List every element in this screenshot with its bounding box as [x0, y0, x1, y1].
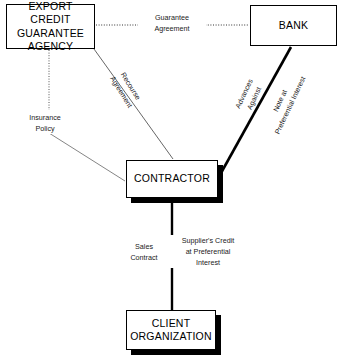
diagram-canvas: EXPORT CREDIT GUARANTEE AGENCY BANK CONT… — [0, 0, 342, 363]
node-client-organization[interactable]: CLIENT ORGANIZATION — [126, 310, 216, 350]
edge-insurance-policy-solid — [49, 133, 125, 181]
edge-label-insurance-policy: Insurance Policy — [13, 112, 77, 134]
edge-label-sales-contract: Sales Contract — [120, 241, 168, 263]
node-label-client-organization: CLIENT ORGANIZATION — [130, 317, 212, 344]
node-contractor[interactable]: CONTRACTOR — [126, 160, 218, 198]
node-export-credit-guarantee-agency[interactable]: EXPORT CREDIT GUARANTEE AGENCY — [6, 4, 95, 49]
node-label-bank: BANK — [279, 19, 308, 33]
node-label-contractor: CONTRACTOR — [134, 172, 210, 186]
node-bank[interactable]: BANK — [250, 5, 337, 46]
node-label-ecga: EXPORT CREDIT GUARANTEE AGENCY — [7, 0, 94, 54]
edge-label-guarantee-agreement: Guarantee Agreement — [138, 12, 206, 34]
edge-label-suppliers-credit: Supplier's Credit at Preferential Intere… — [168, 235, 248, 268]
